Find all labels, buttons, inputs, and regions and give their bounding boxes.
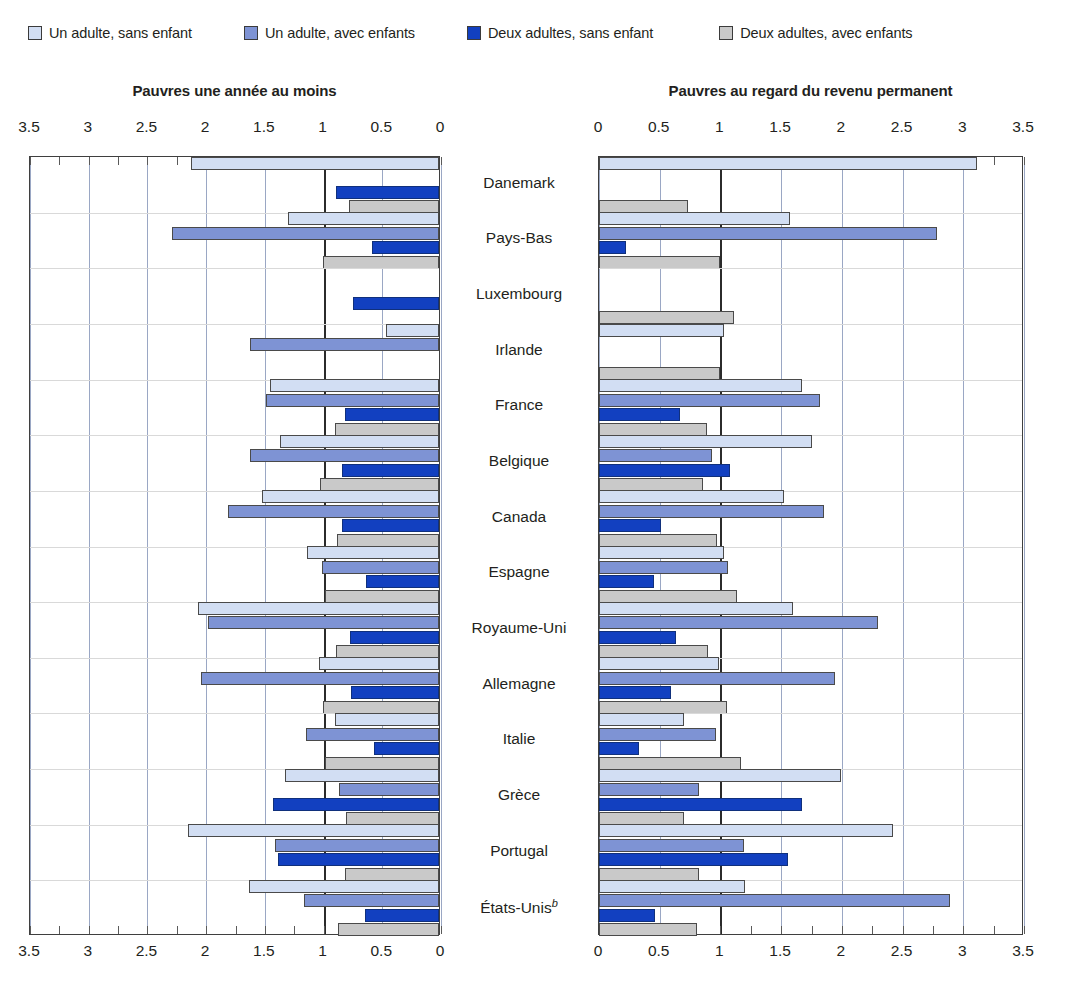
tickmark — [206, 926, 207, 934]
gridline-3-5 — [30, 157, 31, 934]
bar-left-portugal-s2 — [278, 853, 439, 866]
minor-tickmark — [118, 926, 119, 934]
right-tick-top-3-5: 3.5 — [1012, 118, 1034, 136]
legend-item-one-adult-no-child[interactable]: Un adulte, sans enfant — [28, 25, 192, 41]
country-name: Irlande — [495, 341, 542, 358]
bar-right-royaumeuni-s3 — [599, 645, 708, 658]
legend-item-one-adult-with-children[interactable]: Un adulte, avec enfants — [244, 25, 415, 41]
bar-right-royaumeuni-s2 — [599, 631, 676, 644]
legend-item-two-adults-with-children[interactable]: Deux adultes, avec enfants — [719, 25, 912, 41]
bar-left-grce-s0 — [285, 769, 439, 782]
bar-right-canada-s1 — [599, 505, 824, 518]
right-tick-top-1: 1 — [715, 118, 724, 136]
country-label-tatsunis: États-Unisb — [443, 897, 595, 917]
gridline-2-5 — [147, 157, 148, 934]
right-tick-top-0-5: 0.5 — [648, 118, 670, 136]
tickmark — [1024, 157, 1025, 165]
left-panel-title: Pauvres une année au moins — [29, 82, 440, 99]
tickmark — [30, 926, 31, 934]
tickmark — [720, 926, 721, 934]
right-tick-bottom-1: 1 — [715, 942, 724, 960]
country-label-allemagne: Allemagne — [443, 675, 595, 693]
bar-right-belgique-s0 — [599, 435, 812, 448]
minor-tickmark — [294, 926, 295, 934]
country-label-espagne: Espagne — [443, 563, 595, 581]
tickmark — [89, 157, 90, 165]
right-axis-ticks-bottom: 00.511.522.533.5 — [598, 942, 1023, 964]
minor-tickmark — [812, 926, 813, 934]
bar-right-france-s3 — [599, 423, 707, 436]
bar-left-paysbas-s2 — [372, 241, 439, 254]
tickmark — [781, 926, 782, 934]
bar-left-france-s0 — [270, 379, 439, 392]
right-tick-top-0: 0 — [594, 118, 603, 136]
legend-label-one-adult-with-children: Un adulte, avec enfants — [265, 25, 415, 41]
country-name: États-Unis — [480, 899, 552, 916]
bar-right-belgique-s1 — [599, 449, 712, 462]
bar-left-allemagne-s3 — [323, 701, 439, 714]
bar-right-tatsunis-s1 — [599, 894, 950, 907]
country-name: Espagne — [488, 563, 549, 580]
bar-right-italie-s3 — [599, 757, 741, 770]
gridline-2 — [206, 157, 207, 934]
country-name: Danemark — [483, 174, 555, 191]
right-tick-top-3: 3 — [958, 118, 967, 136]
bar-left-canada-s1 — [228, 505, 439, 518]
tickmark — [324, 926, 325, 934]
bar-right-france-s2 — [599, 408, 680, 421]
left-tick-bottom-1: 1 — [318, 942, 327, 960]
country-name: Portugal — [490, 842, 548, 859]
figure-root: Un adulte, sans enfantUn adulte, avec en… — [0, 0, 1065, 989]
gridline-0 — [441, 157, 442, 934]
bar-left-grce-s1 — [339, 783, 439, 796]
bar-left-belgique-s2 — [342, 464, 439, 477]
bar-right-danemark-s3 — [599, 200, 688, 213]
minor-tickmark — [933, 926, 934, 934]
left-plot-area — [29, 156, 440, 935]
left-tick-top-0: 0 — [436, 118, 445, 136]
gridline-3-5 — [1024, 157, 1025, 934]
bar-left-grce-s2 — [273, 798, 439, 811]
bar-right-canada-s3 — [599, 534, 717, 547]
legend-item-two-adults-no-child[interactable]: Deux adultes, sans enfant — [467, 25, 653, 41]
country-name: Royaume-Uni — [472, 619, 567, 636]
right-tick-bottom-3: 3 — [958, 942, 967, 960]
bar-left-allemagne-s1 — [201, 672, 439, 685]
bar-left-france-s2 — [345, 408, 439, 421]
minor-tickmark — [177, 926, 178, 934]
left-tick-bottom-2: 2 — [201, 942, 210, 960]
left-tick-top-2-5: 2.5 — [136, 118, 158, 136]
bar-right-tatsunis-s3 — [599, 923, 697, 936]
bar-right-italie-s2 — [599, 742, 639, 755]
left-axis-ticks-top: 3.532.521.510.50 — [29, 118, 440, 140]
right-tick-bottom-0-5: 0.5 — [648, 942, 670, 960]
bar-left-grce-s3 — [346, 812, 439, 825]
bar-right-paysbas-s2 — [599, 241, 626, 254]
bar-left-france-s1 — [266, 394, 439, 407]
legend-label-two-adults-with-children: Deux adultes, avec enfants — [740, 25, 912, 41]
right-tick-bottom-1-5: 1.5 — [769, 942, 791, 960]
minor-tickmark — [751, 926, 752, 934]
country-label-column: DanemarkPays-BasLuxembourgIrlandeFranceB… — [443, 156, 595, 935]
right-tick-bottom-2: 2 — [837, 942, 846, 960]
left-tick-top-2: 2 — [201, 118, 210, 136]
row-separator — [599, 268, 1022, 269]
right-tick-top-2: 2 — [837, 118, 846, 136]
country-footnote-marker: b — [552, 897, 558, 909]
bar-right-irlande-s3 — [599, 367, 720, 380]
left-tick-bottom-1-5: 1.5 — [253, 942, 275, 960]
bar-left-irlande-s1 — [250, 338, 439, 351]
bar-right-tatsunis-s2 — [599, 909, 655, 922]
bar-left-belgique-s0 — [280, 435, 439, 448]
legend-label-two-adults-no-child: Deux adultes, sans enfant — [488, 25, 653, 41]
minor-tickmark — [994, 157, 995, 165]
bar-right-espagne-s1 — [599, 561, 728, 574]
chart-legend: Un adulte, sans enfantUn adulte, avec en… — [0, 20, 1065, 46]
tickmark — [842, 926, 843, 934]
bar-left-irlande-s0 — [386, 324, 439, 337]
country-name: Canada — [492, 508, 546, 525]
left-tick-bottom-3-5: 3.5 — [18, 942, 40, 960]
bar-left-danemark-s0 — [191, 157, 439, 170]
tickmark — [89, 926, 90, 934]
left-tick-top-3-5: 3.5 — [18, 118, 40, 136]
